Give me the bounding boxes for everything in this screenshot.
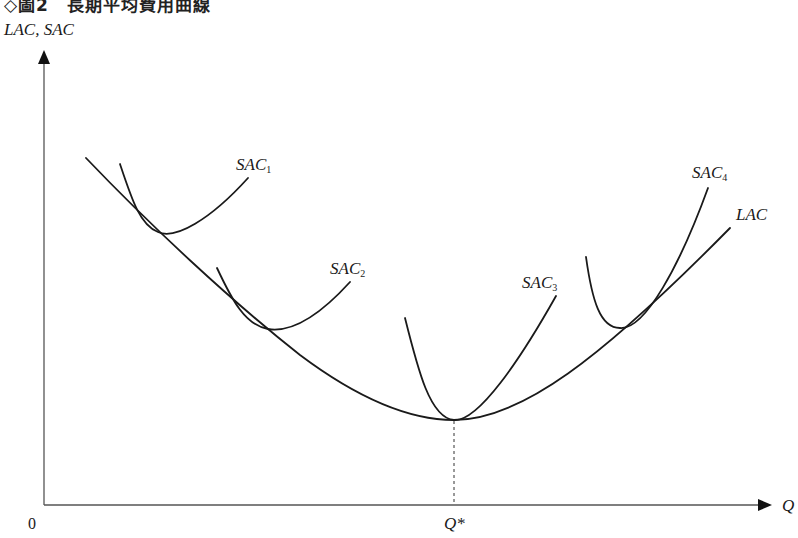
sac1-curve <box>120 164 248 234</box>
sac2-label: SAC2 <box>330 259 365 279</box>
sac4-label: SAC4 <box>692 163 727 183</box>
origin-label: 0 <box>28 515 36 532</box>
lac-curve <box>86 158 730 420</box>
cost-curve-diagram: LAC, SAC Q 0 Q* SAC1 SAC2 SAC3 SAC4 LAC <box>0 0 798 538</box>
sac4-curve <box>586 188 708 328</box>
x-axis-label: Q <box>782 496 794 515</box>
y-axis-label: LAC, SAC <box>3 20 75 39</box>
sac1-label: SAC1 <box>236 155 271 175</box>
x-axis-arrow-icon <box>758 499 772 511</box>
y-axis-arrow-icon <box>38 50 50 64</box>
lac-label: LAC <box>735 205 768 224</box>
q-star-label: Q* <box>444 514 465 533</box>
sac3-curve <box>405 296 556 420</box>
sac3-label: SAC3 <box>522 273 557 293</box>
